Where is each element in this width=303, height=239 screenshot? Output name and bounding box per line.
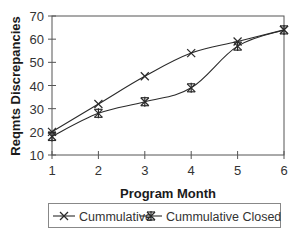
line-chart: 10203040506070 123456 Reqmts Discrepanci… (0, 0, 303, 239)
plot-area (52, 16, 284, 155)
y-tick-label: 60 (30, 32, 44, 47)
y-tick-label: 30 (30, 102, 44, 117)
x-tick-label: 6 (280, 163, 287, 178)
series-lines (48, 25, 288, 142)
asterisk-marker-icon (234, 41, 242, 51)
asterisk-marker-icon (280, 25, 288, 35)
x-tick-label: 4 (188, 163, 195, 178)
asterisk-marker-icon (94, 108, 102, 118)
x-tick-label: 1 (48, 163, 55, 178)
legend-label: Cummulative Closed (166, 210, 281, 224)
y-axis-title: Reqmts Discrepancies (8, 16, 23, 155)
asterisk-marker-icon (48, 131, 56, 141)
asterisk-marker-icon (141, 97, 149, 107)
x-tick-label: 3 (141, 163, 148, 178)
x-axis-title: Program Month (120, 186, 216, 201)
series-cummulative-closed (48, 25, 288, 142)
y-tick-label: 20 (30, 125, 44, 140)
x-tick-label: 5 (234, 163, 241, 178)
y-tick-label: 70 (30, 9, 44, 24)
x-marker-icon (187, 49, 195, 57)
x-marker-icon (141, 72, 149, 80)
asterisk-marker-icon (187, 83, 195, 93)
legend: CummulativeCummulative Closed (49, 204, 282, 228)
y-tick-label: 10 (30, 148, 44, 163)
x-marker-icon (94, 100, 102, 108)
x-tick-label: 2 (95, 163, 102, 178)
y-tick-label: 40 (30, 79, 44, 94)
y-tick-label: 50 (30, 55, 44, 70)
plot-border (52, 16, 284, 155)
